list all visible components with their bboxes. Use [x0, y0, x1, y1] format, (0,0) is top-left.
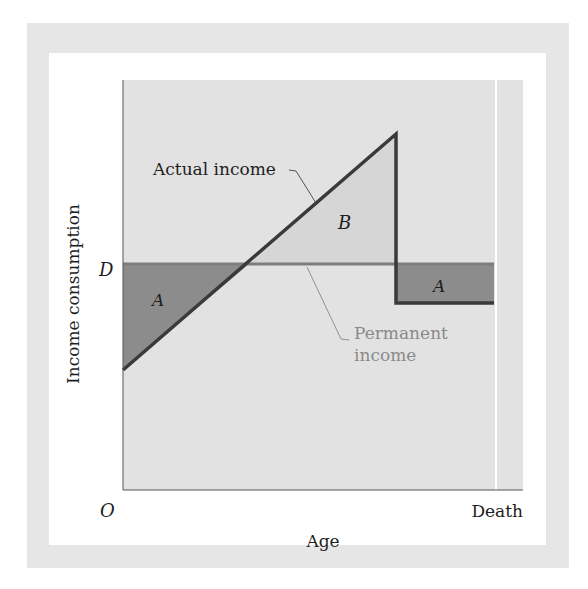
region-b-label: B [337, 212, 351, 233]
d-level-label: D [98, 259, 114, 280]
origin-label: O [100, 500, 115, 521]
x-axis-label: Age [305, 531, 339, 551]
permanent-income-label-line1: Permanent [354, 323, 448, 343]
actual-income-label: Actual income [152, 159, 276, 179]
death-label: Death [471, 501, 523, 521]
y-axis-label: Income consumption [63, 204, 83, 384]
life-cycle-income-chart: Income consumption D O Death Age Actual … [0, 0, 588, 589]
region-a-left-label: A [150, 290, 164, 310]
region-a-right-label: A [431, 276, 445, 296]
permanent-income-label-line2: income [354, 345, 416, 365]
